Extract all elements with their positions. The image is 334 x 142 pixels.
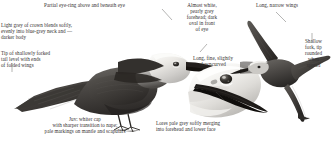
leader-wings <box>276 12 286 22</box>
label-fork: Shallow fork, tip rounded when spread <box>294 38 333 68</box>
leader-forehead <box>200 44 207 52</box>
label-tail: Tip of shallowly forked tail level with … <box>1 50 89 68</box>
label-wings: Long, narrow wings <box>256 2 332 8</box>
head-study-eye <box>220 74 232 84</box>
label-bill: Long, fine, slightly downcurved <box>174 55 252 67</box>
label-eyering: Partial eye-ring above and beneath eye <box>44 2 166 8</box>
label-forehead: Almost white, pearly grey forehead; dark… <box>172 2 232 32</box>
label-lores: Lores pale grey softly merging into fore… <box>156 120 264 132</box>
label-juvenile: Juv: whiter cap with sharper transition … <box>10 116 160 134</box>
field-guide-plate: Partial eye-ring above and beneath eye L… <box>0 0 334 142</box>
leader-eyering <box>162 9 172 20</box>
label-crown: Light grey of crown blends softly, evenl… <box>1 22 105 40</box>
